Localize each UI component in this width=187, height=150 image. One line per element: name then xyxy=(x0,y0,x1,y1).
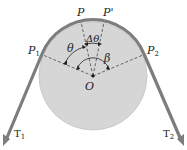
label-p-prime: P' xyxy=(102,6,113,19)
label-theta: θ xyxy=(67,42,74,55)
label-p1: P1 xyxy=(27,44,40,58)
label-delta-theta: Δθ xyxy=(85,33,99,44)
label-beta: β xyxy=(103,52,110,65)
origin-point xyxy=(91,74,94,77)
belt-friction-diagram: P P' P1 P2 θ Δθ β O T1 T2 xyxy=(0,0,187,150)
label-p: P xyxy=(76,6,85,19)
label-p2: P2 xyxy=(146,44,159,58)
label-t1: T1 xyxy=(14,128,25,141)
label-t2: T2 xyxy=(163,128,174,141)
label-origin: O xyxy=(85,80,94,93)
